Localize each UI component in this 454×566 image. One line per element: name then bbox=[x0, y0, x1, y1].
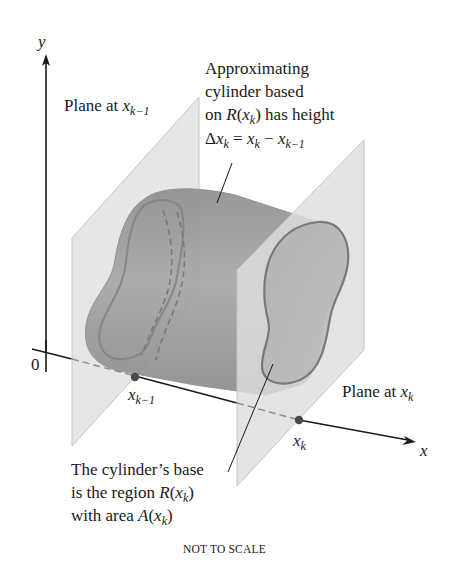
point-label-x-k: xk bbox=[293, 430, 306, 451]
origin-label: 0 bbox=[31, 354, 40, 375]
annotation-top-line2: cylinder based bbox=[205, 81, 304, 102]
point-x-k bbox=[295, 416, 303, 424]
annotation-top-line3: on R(xk) has height bbox=[205, 104, 335, 125]
x-axis-arrow-icon bbox=[402, 436, 416, 445]
x-axis-right-segment bbox=[299, 420, 408, 440]
plane-left-label: Plane at xk−1 bbox=[64, 95, 150, 116]
annotation-bottom-line1: The cylinder’s base bbox=[71, 459, 204, 480]
y-axis-label: y bbox=[38, 31, 46, 52]
annotation-bottom-line3: with area A(xk) bbox=[71, 505, 173, 526]
point-x-k-minus-1 bbox=[131, 373, 139, 381]
annotation-bottom-line2: is the region R(xk) bbox=[71, 482, 194, 503]
annotation-top-line1: Approximating bbox=[205, 58, 309, 79]
point-label-x-k-minus-1: xk−1 bbox=[128, 384, 155, 405]
not-to-scale-note: NOT TO SCALE bbox=[183, 543, 266, 555]
y-axis bbox=[42, 54, 50, 352]
annotation-top-line4: Δxk = xk − xk−1 bbox=[205, 128, 305, 149]
plane-right-label: Plane at xk bbox=[342, 381, 413, 402]
x-axis-label: x bbox=[420, 440, 428, 461]
